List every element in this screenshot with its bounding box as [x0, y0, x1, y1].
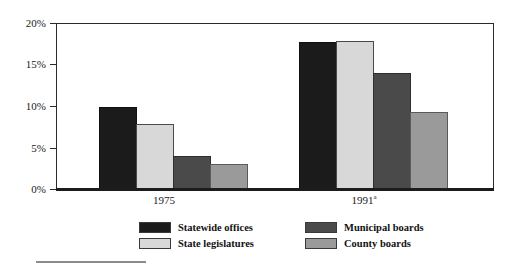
x-axis-baseline [56, 188, 494, 191]
x-tick-label-1975: 1975 [99, 194, 229, 206]
bar-slot-1975-municipal [173, 24, 211, 189]
bar-slot-1991-statewide [299, 24, 337, 189]
chart-legend: Statewide offices State legislatures Mun… [139, 221, 391, 253]
bar-1975-state-legislatures[interactable] [136, 124, 174, 189]
bar-slot-1991-municipal [373, 24, 411, 189]
bar-1975-county-boards[interactable] [210, 164, 248, 189]
legend-item-state-legislatures[interactable]: State legislatures [139, 237, 254, 250]
y-tick-group-10: 10% [0, 101, 46, 112]
legend-swatch-statewide-offices [139, 222, 171, 233]
legend-item-statewide-offices[interactable]: Statewide offices [139, 221, 253, 234]
footnote-separator-rule [36, 261, 146, 263]
legend-swatch-municipal-boards [305, 222, 337, 233]
y-tick-label-5: 5% [2, 143, 46, 154]
y-tick-label-10: 10% [2, 101, 46, 112]
bar-group-1975 [99, 24, 246, 189]
bar-slot-1975-legislatures [136, 24, 174, 189]
legend-swatch-state-legislatures [139, 238, 171, 249]
bar-1975-municipal-boards[interactable] [173, 156, 211, 189]
x-tick-label-1975-text: 1975 [153, 194, 175, 206]
legend-label-county-boards: County boards [344, 238, 411, 249]
y-tick-group-20: 20% [0, 18, 46, 29]
bar-slot-1991-county [410, 24, 448, 189]
bar-slot-1975-statewide [99, 24, 137, 189]
legend-item-municipal-boards[interactable]: Municipal boards [305, 221, 424, 234]
legend-label-municipal-boards: Municipal boards [344, 222, 424, 233]
y-tick-label-20: 20% [2, 18, 46, 29]
y-tick-group-15: 15% [0, 59, 46, 70]
y-tick-group-5: 5% [0, 143, 46, 154]
bar-1991-state-legislatures[interactable] [336, 41, 374, 189]
legend-swatch-county-boards [305, 238, 337, 249]
x-tick-label-1991-text: 1991 [351, 194, 373, 206]
legend-label-state-legislatures: State legislatures [178, 238, 254, 249]
bars-layer [57, 24, 493, 189]
bar-1991-county-boards[interactable] [410, 112, 448, 189]
bar-slot-1975-county [210, 24, 248, 189]
y-tick-group-0: 0% [0, 184, 46, 195]
x-tick-label-1991-superscript: a [373, 193, 376, 201]
x-tick-label-1991: 1991a [299, 194, 429, 206]
bar-1991-statewide-offices[interactable] [299, 42, 337, 189]
legend-label-statewide-offices: Statewide offices [178, 222, 253, 233]
y-tick-label-0: 0% [2, 184, 46, 195]
bar-1975-statewide-offices[interactable] [99, 107, 137, 190]
bar-chart-figure: 20% 15% 10% 5% 0% [0, 0, 513, 273]
bar-1991-municipal-boards[interactable] [373, 73, 411, 189]
legend-item-county-boards[interactable]: County boards [305, 237, 411, 250]
bar-group-1991 [299, 24, 446, 189]
y-tick-label-15: 15% [2, 59, 46, 70]
bar-slot-1991-legislatures [336, 24, 374, 189]
